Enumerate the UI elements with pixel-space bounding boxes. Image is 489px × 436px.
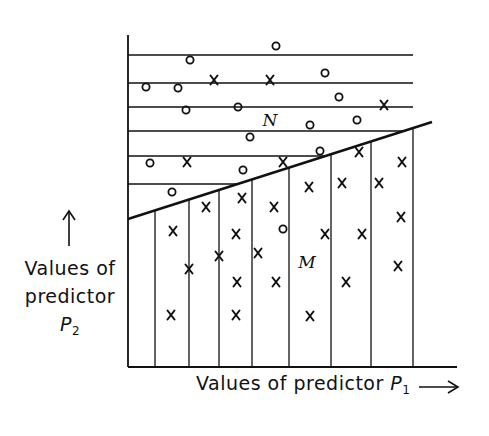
cross-marker (322, 230, 329, 239)
cross-marker (395, 262, 402, 271)
circle-marker (279, 225, 286, 232)
scatter-diagram: N M (0, 0, 489, 436)
circle-marker (239, 166, 246, 173)
cross-marker (356, 148, 363, 157)
cross-marker (359, 230, 366, 239)
cross-marker (233, 230, 240, 239)
cross-marker (184, 158, 191, 167)
cross-marker (343, 278, 350, 287)
data-markers (142, 42, 405, 320)
cross-marker (307, 312, 314, 321)
cross-marker (280, 158, 287, 167)
y-axis-label-symbol: P2 (10, 310, 130, 345)
circle-marker (321, 69, 328, 76)
x-axis-label: Values of predictor P1 (196, 372, 410, 397)
x-axis-symbol: P (390, 372, 402, 394)
cross-marker (273, 278, 280, 287)
up-arrow-icon (63, 211, 75, 246)
circle-marker (353, 116, 360, 123)
cross-marker (233, 311, 240, 320)
cross-marker (239, 194, 246, 203)
circle-marker (142, 83, 149, 90)
circle-marker (272, 42, 279, 49)
x-axis-subscript: 1 (402, 383, 410, 397)
circle-marker (335, 93, 342, 100)
cross-marker (381, 101, 388, 110)
circle-marker (174, 84, 181, 91)
circle-marker (316, 147, 323, 154)
cross-marker (170, 227, 177, 236)
cross-marker (203, 203, 210, 212)
region-label-m: M (297, 252, 316, 272)
cross-marker (234, 278, 241, 287)
decision-boundary-line (128, 122, 432, 219)
cross-marker (376, 179, 383, 188)
y-axis-symbol: P (60, 313, 72, 335)
y-axis-subscript: 2 (72, 324, 80, 338)
cross-marker (306, 183, 313, 192)
circle-marker (186, 56, 193, 63)
y-axis-label-line2: predictor (10, 282, 130, 310)
y-axis-label-line1: Values of (10, 254, 130, 282)
x-axis-label-text: Values of predictor (196, 372, 384, 394)
cross-marker (339, 179, 346, 188)
cross-marker (399, 158, 406, 167)
region-label-n: N (262, 110, 279, 130)
cross-marker (168, 311, 175, 320)
cross-marker (271, 203, 278, 212)
cross-marker (255, 249, 262, 258)
cross-marker (398, 213, 405, 222)
circle-marker (168, 188, 175, 195)
circle-marker (246, 133, 253, 140)
right-arrow-icon (419, 381, 458, 393)
circle-marker (146, 159, 153, 166)
circle-marker (306, 121, 313, 128)
